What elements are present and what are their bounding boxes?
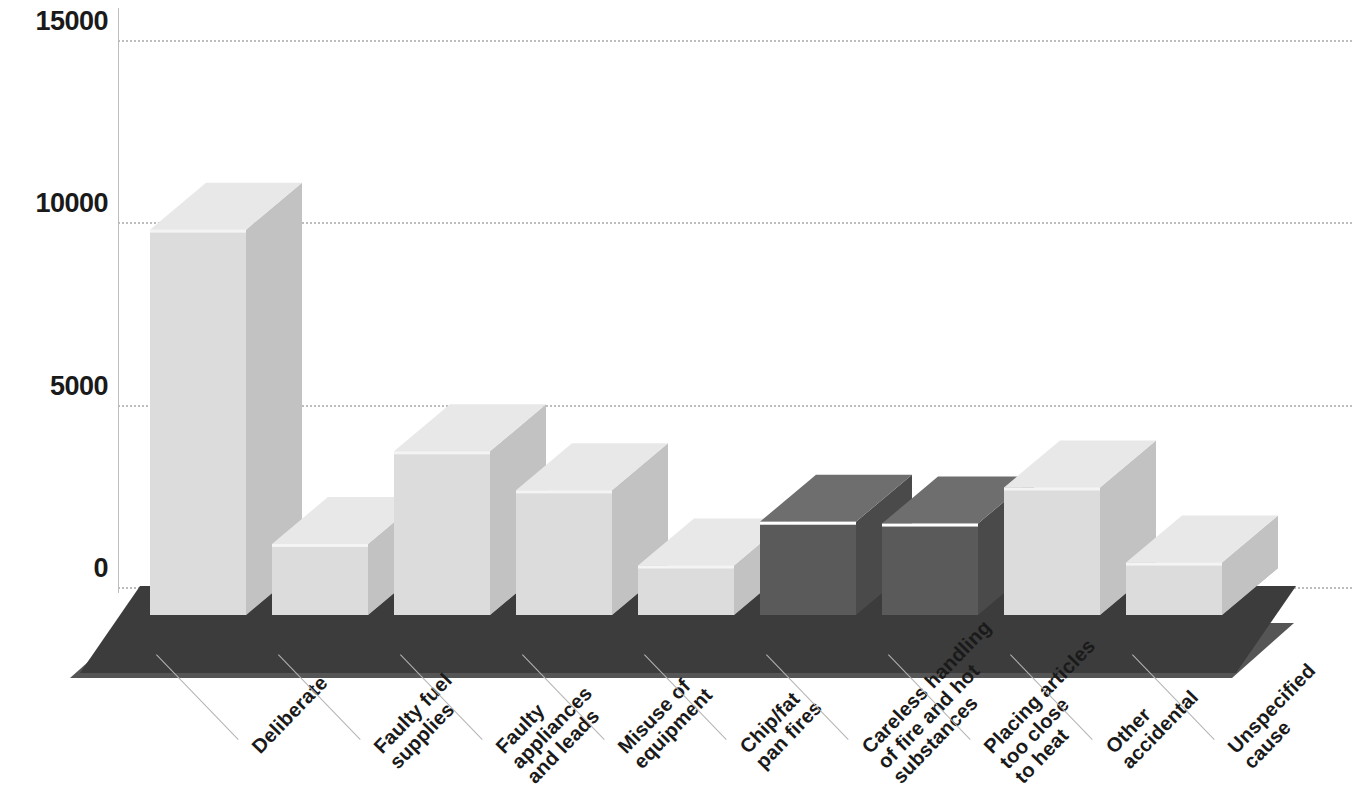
x-axis-category-label: Faulty fuel supplies bbox=[370, 669, 472, 773]
x-axis-category-label: Misuse of equipment bbox=[614, 669, 717, 773]
category-labels-layer: DeliberateFaulty fuel suppliesFaulty app… bbox=[0, 0, 1352, 808]
chart-root: 050001000015000 DeliberateFaulty fuel su… bbox=[0, 0, 1352, 808]
x-axis-category-label: Chip/fat pan fires bbox=[736, 682, 826, 773]
label-leader-line bbox=[156, 654, 239, 740]
x-axis-category-label: Unspecified cause bbox=[1224, 660, 1335, 773]
x-axis-category-label: Deliberate bbox=[248, 672, 332, 758]
